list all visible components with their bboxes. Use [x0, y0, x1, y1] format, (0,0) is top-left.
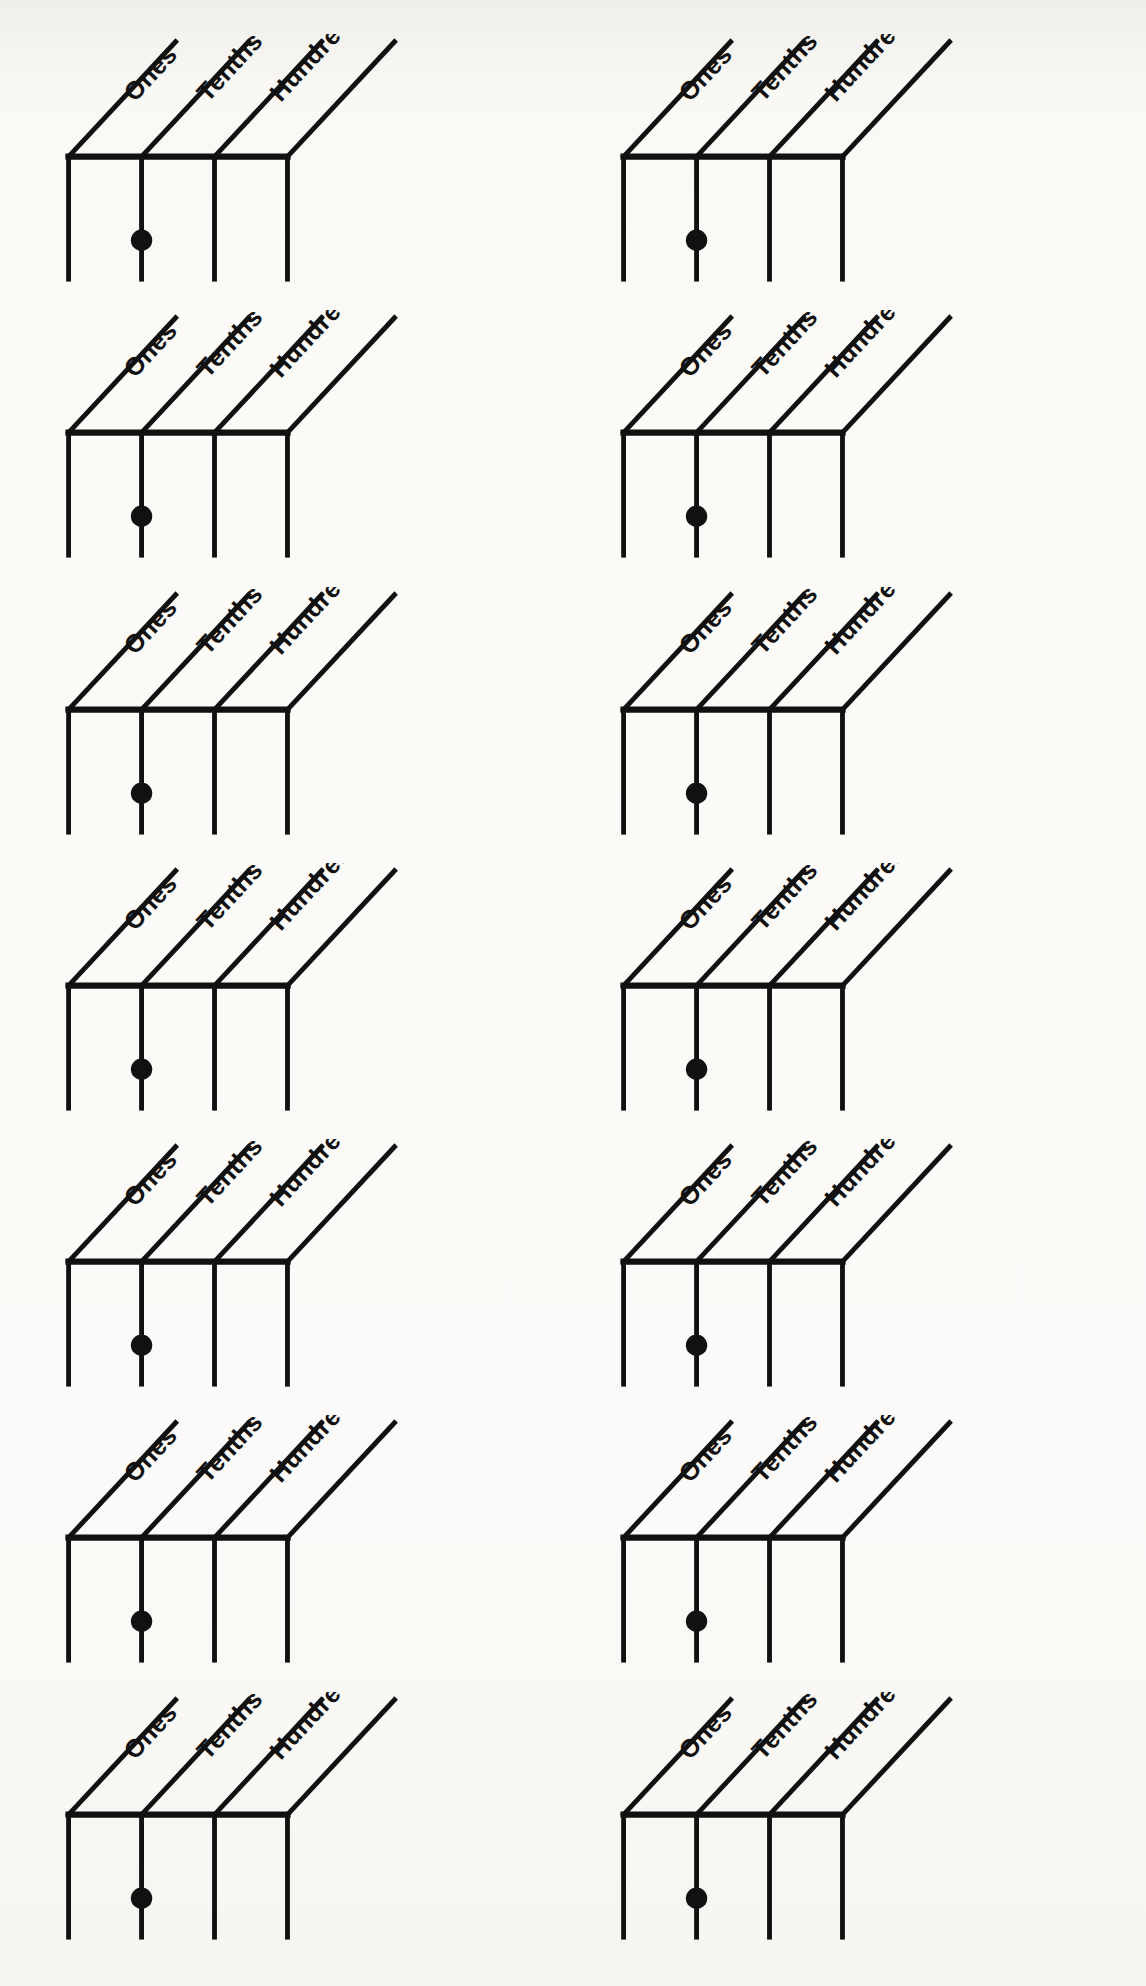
- place-value-chart[interactable]: OnesTenthsHundredths: [18, 1692, 573, 1968]
- decimal-point-marker: [686, 230, 707, 251]
- decimal-point-marker: [686, 1887, 707, 1908]
- decimal-point-marker: [131, 1887, 152, 1908]
- decimal-point-marker: [131, 1058, 152, 1079]
- place-value-chart-graphic: OnesTenthsHundredths: [573, 34, 1128, 310]
- decimal-point-marker: [686, 782, 707, 803]
- place-value-chart-graphic: OnesTenthsHundredths: [18, 1415, 573, 1691]
- column-header-ones: Ones: [673, 316, 737, 382]
- place-value-chart[interactable]: OnesTenthsHundredths: [573, 587, 1128, 863]
- place-value-chart-graphic: OnesTenthsHundredths: [18, 1692, 573, 1968]
- decimal-point-marker: [131, 506, 152, 527]
- column-header-tenths: Tenths: [746, 310, 823, 382]
- decimal-point-marker: [686, 1058, 707, 1079]
- decimal-point-marker: [131, 782, 152, 803]
- place-value-chart-worksheet: OnesTenthsHundredthsOnesTenthsHundredths…: [0, 0, 1146, 1986]
- place-value-chart[interactable]: OnesTenthsHundredths: [573, 1692, 1128, 1968]
- column-header-tenths: Tenths: [191, 587, 268, 659]
- place-value-chart[interactable]: OnesTenthsHundredths: [573, 34, 1128, 310]
- place-value-chart-graphic: OnesTenthsHundredths: [573, 1692, 1128, 1968]
- place-value-chart[interactable]: OnesTenthsHundredths: [573, 863, 1128, 1139]
- place-value-chart[interactable]: OnesTenthsHundredths: [18, 863, 573, 1139]
- decimal-point-marker: [131, 1335, 152, 1356]
- column-header-tenths: Tenths: [746, 1415, 823, 1487]
- place-value-chart-graphic: OnesTenthsHundredths: [18, 1139, 573, 1415]
- decimal-point-marker: [686, 1335, 707, 1356]
- column-header-tenths: Tenths: [746, 1139, 823, 1211]
- place-value-chart-graphic: OnesTenthsHundredths: [18, 310, 573, 586]
- place-value-chart-graphic: OnesTenthsHundredths: [18, 863, 573, 1139]
- column-header-ones: Ones: [673, 1145, 737, 1211]
- column-header-ones: Ones: [118, 869, 182, 935]
- column-header-ones: Ones: [118, 593, 182, 659]
- column-header-ones: Ones: [673, 1422, 737, 1488]
- place-value-chart-graphic: OnesTenthsHundredths: [573, 1139, 1128, 1415]
- column-header-tenths: Tenths: [191, 1692, 268, 1764]
- column-header-tenths: Tenths: [191, 1415, 268, 1487]
- column-header-ones: Ones: [118, 1145, 182, 1211]
- column-header-tenths: Tenths: [191, 1139, 268, 1211]
- place-value-chart-graphic: OnesTenthsHundredths: [573, 1415, 1128, 1691]
- column-header-tenths: Tenths: [191, 310, 268, 382]
- column-header-ones: Ones: [673, 593, 737, 659]
- place-value-chart-graphic: OnesTenthsHundredths: [18, 34, 573, 310]
- place-value-chart[interactable]: OnesTenthsHundredths: [18, 587, 573, 863]
- place-value-chart[interactable]: OnesTenthsHundredths: [573, 310, 1128, 586]
- place-value-chart[interactable]: OnesTenthsHundredths: [18, 310, 573, 586]
- column-header-tenths: Tenths: [746, 863, 823, 935]
- column-header-tenths: Tenths: [191, 863, 268, 935]
- column-header-ones: Ones: [673, 1698, 737, 1764]
- column-header-ones: Ones: [673, 869, 737, 935]
- column-header-ones: Ones: [118, 1422, 182, 1488]
- column-header-ones: Ones: [118, 316, 182, 382]
- column-header-tenths: Tenths: [191, 34, 268, 106]
- place-value-chart[interactable]: OnesTenthsHundredths: [18, 34, 573, 310]
- place-value-chart-graphic: OnesTenthsHundredths: [18, 587, 573, 863]
- decimal-point-marker: [131, 230, 152, 251]
- place-value-chart[interactable]: OnesTenthsHundredths: [18, 1415, 573, 1691]
- column-header-tenths: Tenths: [746, 587, 823, 659]
- place-value-chart-graphic: OnesTenthsHundredths: [573, 863, 1128, 1139]
- column-header-tenths: Tenths: [746, 1692, 823, 1764]
- decimal-point-marker: [131, 1611, 152, 1632]
- column-header-ones: Ones: [118, 1698, 182, 1764]
- column-header-ones: Ones: [673, 40, 737, 106]
- column-header-tenths: Tenths: [746, 34, 823, 106]
- place-value-chart[interactable]: OnesTenthsHundredths: [573, 1415, 1128, 1691]
- place-value-chart-graphic: OnesTenthsHundredths: [573, 310, 1128, 586]
- place-value-chart[interactable]: OnesTenthsHundredths: [573, 1139, 1128, 1415]
- decimal-point-marker: [686, 506, 707, 527]
- column-header-ones: Ones: [118, 40, 182, 106]
- place-value-chart[interactable]: OnesTenthsHundredths: [18, 1139, 573, 1415]
- place-value-chart-graphic: OnesTenthsHundredths: [573, 587, 1128, 863]
- decimal-point-marker: [686, 1611, 707, 1632]
